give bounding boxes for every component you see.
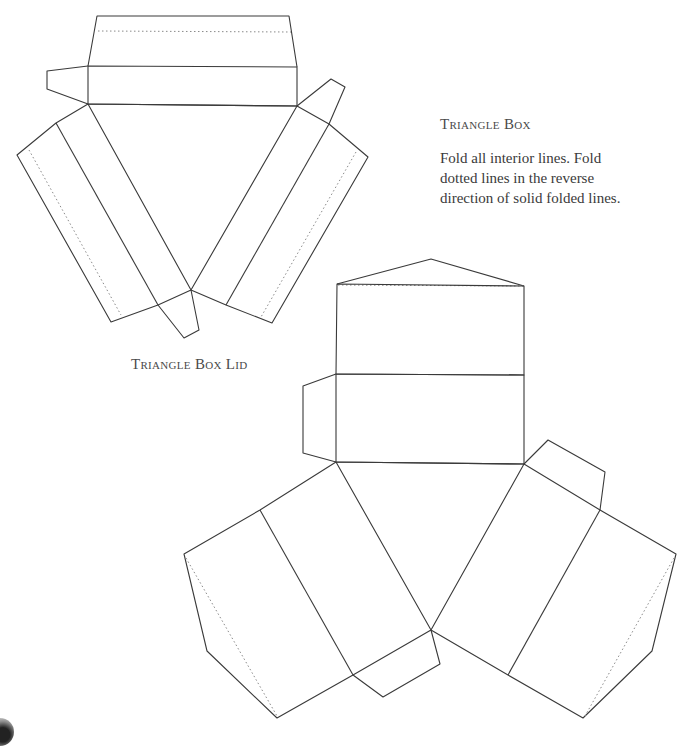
box-right-glue-tab <box>524 440 605 510</box>
triangle-box-title: Triangle Box <box>440 116 531 133</box>
lid-center-triangle <box>88 104 297 290</box>
box-top-flap <box>337 259 524 286</box>
lid-left-side-panel <box>17 104 191 322</box>
box-upper-side-panel <box>336 284 524 375</box>
box-left-side-panel <box>184 462 431 718</box>
lid-left-dotted-fold <box>29 150 121 315</box>
box-center-triangle <box>336 462 524 630</box>
box-lower-side-panel <box>336 374 524 464</box>
box-left-dotted-fold <box>186 558 277 716</box>
lid-left-fold-line <box>56 123 158 305</box>
triangle-box-lid-net <box>17 16 368 338</box>
triangle-box-lid-caption: Triangle Box Lid <box>131 356 247 373</box>
lid-bottom-glue-tab <box>158 290 199 338</box>
lid-right-dotted-fold <box>261 152 356 317</box>
box-left-glue-tab <box>303 374 336 462</box>
lid-left-glue-tab <box>47 66 88 104</box>
lid-right-fold-line <box>226 124 329 305</box>
lid-right-glue-tab <box>297 79 345 124</box>
box-left-fold-line <box>260 510 353 675</box>
box-right-side-panel <box>431 464 676 718</box>
lid-top-dotted-fold <box>98 31 291 32</box>
lid-top-flap <box>88 16 297 67</box>
folding-instructions: Fold all interior lines. Fold dotted lin… <box>440 148 640 208</box>
box-right-dotted-fold <box>585 558 674 716</box>
lid-top-side-panel <box>88 66 297 106</box>
box-right-fold-line <box>508 510 600 675</box>
lid-right-side-panel <box>191 106 368 323</box>
triangle-box-net <box>184 259 676 718</box>
box-bottom-glue-tab <box>353 630 440 697</box>
